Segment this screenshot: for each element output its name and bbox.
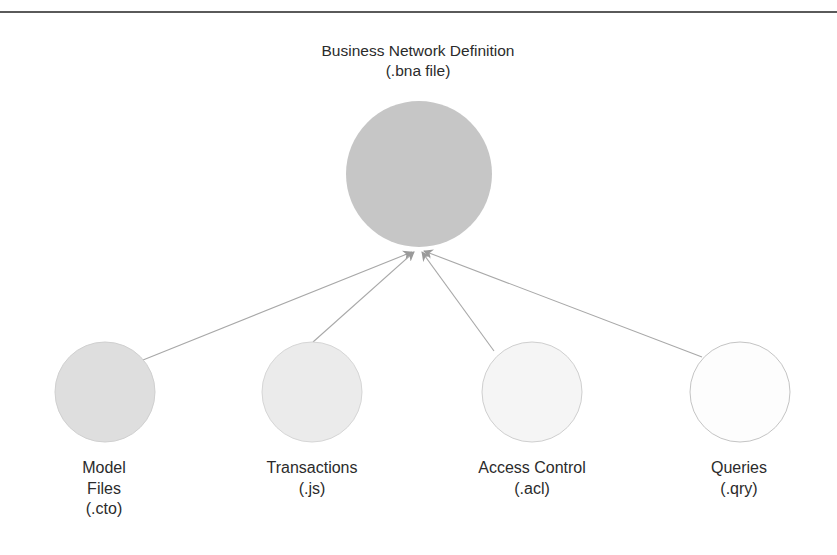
root-subtitle: (.bna file) [322, 61, 515, 81]
root-title: Business Network Definition [322, 41, 515, 61]
bna-node-circle [346, 101, 492, 247]
edge-model-files-to-bna [143, 252, 412, 360]
queries-extension: (.qry) [711, 479, 767, 500]
queries-node-circle [690, 342, 790, 442]
queries-label: Queries (.qry) [711, 458, 767, 499]
root-node-label: Business Network Definition (.bna file) [322, 41, 515, 81]
edge-transactions-to-bna [313, 252, 414, 342]
model-files-label: Model Files (.cto) [82, 458, 126, 520]
edges-group [143, 251, 702, 360]
transactions-label-line: Transactions [267, 458, 358, 479]
model-files-label-line: Files [82, 479, 126, 500]
access-control-label-line: Access Control [478, 458, 586, 479]
model-files-extension: (.cto) [82, 499, 126, 520]
model-files-node-circle [55, 342, 155, 442]
access-control-node-circle [482, 342, 582, 442]
transactions-node-circle [262, 342, 362, 442]
model-files-label-line: Model [82, 458, 126, 479]
transactions-label: Transactions (.js) [267, 458, 358, 499]
transactions-extension: (.js) [267, 479, 358, 500]
access-control-label: Access Control (.acl) [478, 458, 586, 499]
edge-access-control-to-bna [422, 252, 494, 351]
edge-queries-to-bna [424, 251, 702, 357]
queries-label-line: Queries [711, 458, 767, 479]
access-control-extension: (.acl) [478, 479, 586, 500]
nodes-group [55, 101, 790, 442]
